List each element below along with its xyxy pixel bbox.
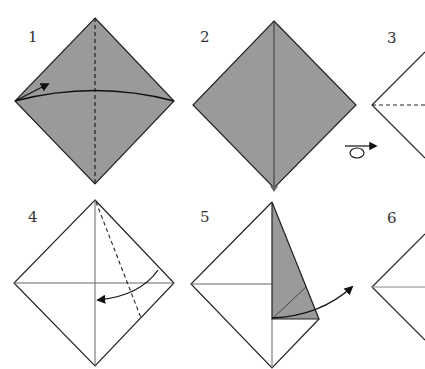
step-6: 6	[372, 209, 425, 340]
step-5: 5	[191, 202, 352, 368]
turn-over-icon	[345, 146, 376, 158]
chevron-down-icon	[270, 186, 278, 192]
step-number: 5	[200, 208, 210, 226]
step-2: 2	[193, 21, 356, 188]
step-number: 2	[200, 28, 210, 46]
step-number: 1	[28, 28, 38, 46]
gray-flap	[272, 202, 319, 319]
step-1: 1	[15, 18, 174, 184]
step-number: 6	[387, 209, 397, 227]
step-number: 3	[387, 29, 397, 47]
step-4: 4	[14, 200, 174, 366]
step-number: 4	[28, 208, 38, 226]
step-3: 3	[372, 29, 425, 158]
origami-diagram: 1 2 3 4 5	[0, 0, 425, 369]
